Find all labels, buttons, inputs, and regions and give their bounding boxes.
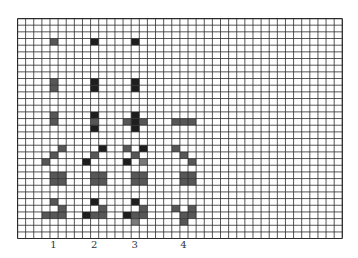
band-cell [123, 145, 131, 152]
band-cell [50, 79, 58, 86]
band-cell [50, 199, 58, 206]
band-cell [131, 179, 139, 186]
band-cell [188, 212, 196, 219]
band-cell [139, 159, 147, 166]
gel-grid [17, 18, 343, 239]
band-cell [58, 145, 66, 152]
band-cell [131, 172, 139, 179]
grid-canvas [17, 18, 343, 239]
band-cell [82, 159, 90, 166]
band-cell [91, 112, 99, 119]
band-cell [131, 212, 139, 219]
band-cell [131, 79, 139, 86]
band-cell [139, 119, 147, 126]
band-cell [50, 212, 58, 219]
band-cell [180, 212, 188, 219]
band-cell [139, 205, 147, 212]
band-cell [50, 112, 58, 119]
band-cell [180, 219, 188, 226]
band-cell [139, 179, 147, 186]
band-cell [123, 159, 131, 166]
band-cell [139, 172, 147, 179]
band-cell [91, 212, 99, 219]
band-cell [58, 212, 66, 219]
band-cell [58, 172, 66, 179]
band-cell [131, 85, 139, 92]
band-cell [82, 212, 90, 219]
band-cell [172, 205, 180, 212]
band-cell [99, 145, 107, 152]
band-cell [188, 172, 196, 179]
band-cell [131, 199, 139, 206]
band-cell [188, 205, 196, 212]
lane-label-3: 3 [132, 239, 138, 250]
band-cell [91, 172, 99, 179]
band-cell [139, 212, 147, 219]
band-cell [50, 152, 58, 159]
band-cell [172, 145, 180, 152]
band-cell [99, 172, 107, 179]
band-cell [91, 119, 99, 126]
lane-label-4: 4 [180, 239, 186, 250]
band-cell [131, 112, 139, 119]
band-cell [99, 212, 107, 219]
band-cell [91, 152, 99, 159]
band-cell [131, 152, 139, 159]
band-cell [123, 119, 131, 126]
band-cell [123, 212, 131, 219]
band-cell [91, 179, 99, 186]
band-cell [58, 179, 66, 186]
band-cell [91, 199, 99, 206]
band-cell [180, 152, 188, 159]
band-cell [42, 159, 50, 166]
band-cell [50, 39, 58, 46]
band-cell [50, 119, 58, 126]
band-cell [172, 119, 180, 126]
band-cell [91, 85, 99, 92]
band-cell [131, 219, 139, 226]
lane-label-2: 2 [91, 239, 97, 250]
band-cell [99, 179, 107, 186]
band-cell [91, 39, 99, 46]
band-cell [188, 119, 196, 126]
band-cell [58, 205, 66, 212]
band-cell [188, 159, 196, 166]
band-cell [131, 125, 139, 132]
band-cell [139, 145, 147, 152]
band-cell [131, 119, 139, 126]
band-cell [180, 172, 188, 179]
band-cell [91, 125, 99, 132]
band-cell [50, 172, 58, 179]
band-cell [50, 85, 58, 92]
band-cell [131, 39, 139, 46]
band-cell [50, 179, 58, 186]
band-cell [42, 212, 50, 219]
band-cell [99, 205, 107, 212]
band-cell [91, 79, 99, 86]
band-cell [180, 179, 188, 186]
band-cell [180, 119, 188, 126]
lane-label-1: 1 [50, 239, 56, 250]
band-cell [188, 179, 196, 186]
